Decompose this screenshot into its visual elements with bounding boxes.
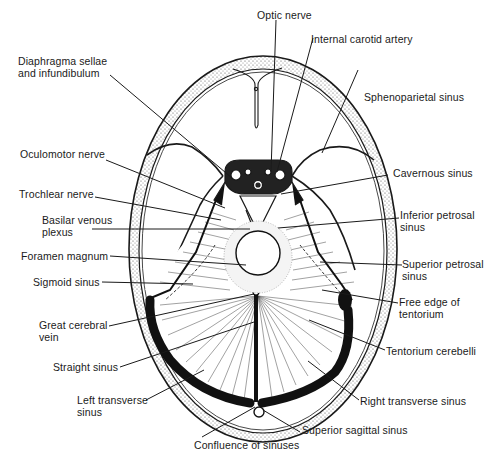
label-internal-carotid-artery: Internal carotid artery [311,33,413,45]
label-right-transverse-sinus: Right transverse sinus [360,395,466,407]
label-sphenoparietal-sinus: Sphenoparietal sinus [364,91,464,103]
label-trochlear-nerve: Trochlear nerve [19,188,94,200]
label-free-edge-of-tentorium: Free edge of tentorium [399,296,460,320]
label-tentorium-cerebelli: Tentorium cerebelli [386,345,476,357]
label-superior-petrosal-sinus: Superior petrosal sinus [402,258,484,282]
label-cavernous-sinus: Cavernous sinus [393,167,473,179]
label-great-cerebral-vein: Great cerebral vein [39,319,108,343]
label-superior-sagittal-sinus: Superior sagittal sinus [302,424,408,436]
label-oculomotor-nerve: Oculomotor nerve [20,148,105,160]
label-sigmoid-sinus: Sigmoid sinus [33,276,100,288]
label-basilar-venous-plexus: Basilar venous plexus [42,214,112,238]
foramen-magnum [224,221,292,293]
label-optic-nerve: Optic nerve [257,9,312,21]
label-straight-sinus: Straight sinus [53,361,118,373]
superior-sagittal-sinus [254,407,264,417]
anatomy-diagram: Optic nerve Internal carotid artery Diap… [0,0,497,464]
label-confluence-of-sinuses: Confluence of sinuses [194,439,299,451]
label-left-transverse-sinus: Left transverse sinus [77,394,148,418]
label-diaphragma-sellae: Diaphragma sellae and infundibulum [18,55,107,79]
label-inferior-petrosal-sinus: Inferior petrosal sinus [400,209,475,233]
label-foramen-magnum: Foramen magnum [21,250,108,262]
